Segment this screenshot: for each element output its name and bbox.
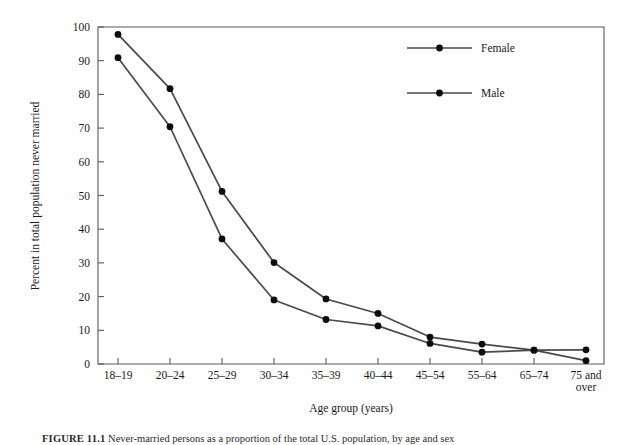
series-layer bbox=[115, 31, 590, 364]
y-tick-label: 40 bbox=[79, 223, 91, 235]
data-point-female-5 bbox=[375, 323, 382, 330]
x-tick-label: 25–29 bbox=[208, 369, 237, 381]
data-point-female-6 bbox=[427, 340, 434, 347]
data-point-female-2 bbox=[219, 236, 226, 243]
data-point-male-4 bbox=[323, 296, 330, 303]
legend-marker-male bbox=[436, 90, 443, 97]
data-point-female-9 bbox=[583, 357, 590, 364]
x-tick-label: 35–39 bbox=[312, 369, 341, 381]
x-tick-label: 65–74 bbox=[520, 369, 549, 381]
legend-label-female: Female bbox=[481, 42, 515, 54]
y-tick-label: 30 bbox=[79, 257, 91, 269]
data-point-female-4 bbox=[323, 316, 330, 323]
legend-marker-female bbox=[436, 45, 443, 52]
data-point-female-0 bbox=[115, 54, 122, 61]
data-point-male-9 bbox=[583, 346, 590, 353]
y-tick-label: 60 bbox=[79, 156, 91, 168]
data-point-male-1 bbox=[167, 85, 174, 92]
x-tick-label: 75 andover bbox=[571, 369, 602, 393]
y-tick-label: 0 bbox=[84, 358, 90, 370]
series-line-male bbox=[118, 34, 586, 350]
series-line-female bbox=[118, 58, 586, 361]
x-tick-label: 45–54 bbox=[416, 369, 445, 381]
y-tick-label: 50 bbox=[79, 190, 91, 202]
data-point-male-6 bbox=[427, 334, 434, 341]
data-point-male-0 bbox=[115, 31, 122, 38]
x-tick-label: 18–19 bbox=[104, 369, 133, 381]
data-point-female-1 bbox=[167, 123, 174, 130]
y-tick-label: 80 bbox=[79, 88, 91, 100]
x-axis-ticks: 18–1920–2425–2930–3435–3940–4445–5455–64… bbox=[104, 358, 602, 393]
y-tick-label: 10 bbox=[79, 324, 91, 336]
x-tick-label: 20–24 bbox=[156, 369, 185, 381]
x-tick-label: 40–44 bbox=[364, 369, 393, 381]
figure-caption-text: Never-married persons as a proportion of… bbox=[108, 433, 454, 444]
data-point-male-7 bbox=[479, 341, 486, 348]
y-axis-ticks: 0102030405060708090100 bbox=[73, 21, 104, 370]
figure-caption: FIGURE 11.1 Never-married persons as a p… bbox=[42, 433, 602, 445]
plot-frame bbox=[98, 27, 604, 364]
data-point-male-2 bbox=[219, 188, 226, 195]
x-tick-label: 55–64 bbox=[468, 369, 497, 381]
chart-legend: FemaleMale bbox=[407, 42, 515, 99]
y-tick-label: 100 bbox=[73, 21, 91, 33]
figure-number: FIGURE 11.1 bbox=[42, 433, 105, 444]
y-axis-title: Percent in total population never marrie… bbox=[29, 101, 42, 290]
data-point-female-3 bbox=[271, 297, 278, 304]
data-point-female-7 bbox=[479, 349, 486, 356]
x-tick-label: 30–34 bbox=[260, 369, 289, 381]
x-axis-title: Age group (years) bbox=[309, 402, 393, 415]
legend-label-male: Male bbox=[481, 87, 505, 99]
data-point-male-5 bbox=[375, 310, 382, 317]
y-tick-label: 90 bbox=[79, 55, 91, 67]
plot-border bbox=[98, 27, 604, 364]
y-tick-label: 70 bbox=[79, 122, 91, 134]
data-point-female-8 bbox=[531, 347, 538, 354]
data-point-male-3 bbox=[271, 259, 278, 266]
y-tick-label: 20 bbox=[79, 291, 91, 303]
